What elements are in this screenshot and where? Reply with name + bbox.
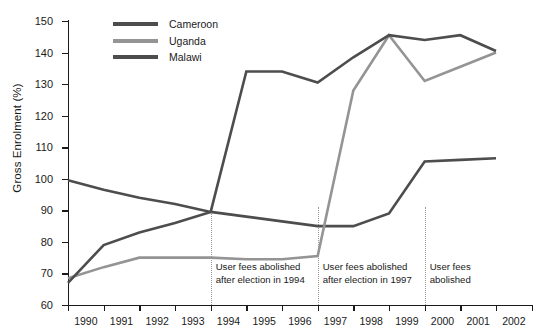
x-tick-label: 1995 [252,315,275,327]
y-tick-label: 100 [35,173,53,185]
x-tick-mark [139,305,140,311]
series-line-cameroon [68,158,496,226]
plot-area: 60708090100110120130140150 1990199119921… [68,21,496,305]
x-tick-mark [211,305,212,311]
x-tick-label: 1999 [395,315,418,327]
y-axis-title: Gross Enrolment (%) [11,43,23,233]
x-tick-label: 2002 [502,315,525,327]
x-tick-label: 1994 [217,315,240,327]
x-tick-label: 1998 [359,315,382,327]
x-tick-mark [175,305,176,311]
x-tick-mark [460,305,461,311]
y-tick-label: 60 [41,299,53,311]
x-tick-mark [496,305,497,311]
x-tick-mark [68,305,69,311]
x-tick-label: 1996 [288,315,311,327]
x-tick-label: 2001 [466,315,489,327]
series-line-malawi [68,35,496,283]
y-tick-label: 80 [41,236,53,248]
x-tick-mark [246,305,247,311]
y-tick-label: 130 [35,78,53,90]
x-tick-label: 1990 [74,315,97,327]
y-tick-label: 140 [35,47,53,59]
x-tick-label: 1997 [324,315,347,327]
y-tick-label: 70 [41,267,53,279]
x-tick-mark [318,305,319,311]
y-tick-label: 110 [35,141,53,153]
x-tick-mark [389,305,390,311]
x-tick-label: 2000 [431,315,454,327]
x-tick-label: 1992 [145,315,168,327]
x-tick-mark [425,305,426,311]
series-lines [68,21,496,305]
y-tick-label: 120 [35,110,53,122]
x-tick-mark [104,305,105,311]
y-tick-label: 90 [41,204,53,216]
x-tick-mark [353,305,354,311]
x-tick-mark [282,305,283,311]
x-tick-label: 1991 [110,315,133,327]
x-tick-label: 1993 [181,315,204,327]
y-tick-label: 150 [35,15,53,27]
